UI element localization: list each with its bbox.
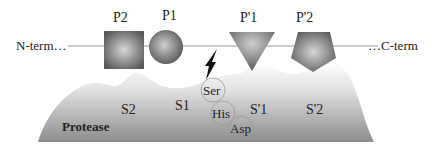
protease-label: Protease <box>62 119 110 134</box>
catalytic-his-label: His <box>212 106 230 121</box>
catalytic-ser-label: Ser <box>203 83 221 98</box>
residue-label-p1: P1 <box>162 8 177 23</box>
subsite-label-s1: S1 <box>175 98 190 113</box>
protease-substrate-diagram: N-term… …C-term P2 P1 P'1 P'2 S2 S1 S'1 … <box>0 0 437 150</box>
subsite-label-s1prime: S'1 <box>250 102 267 117</box>
subsite-label-s2: S2 <box>121 102 136 117</box>
residue-p2-square <box>104 31 144 69</box>
residue-label-p1prime: P'1 <box>240 10 257 25</box>
n-term-label: N-term… <box>16 38 67 53</box>
residue-label-p2: P2 <box>113 10 128 25</box>
residue-label-p2prime: P'2 <box>296 10 313 25</box>
residue-p1-circle <box>149 30 183 64</box>
lightning-bolt-icon <box>205 49 217 80</box>
catalytic-asp-label: Asp <box>230 121 251 136</box>
subsite-label-s2prime: S'2 <box>306 102 323 117</box>
c-term-label: …C-term <box>368 38 418 53</box>
residue-p1prime-triangle <box>229 32 275 71</box>
